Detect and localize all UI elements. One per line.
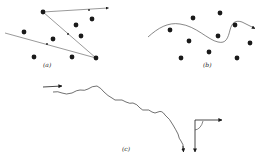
panel-a-trajectory (5, 8, 108, 58)
right-angle-arc (195, 121, 203, 130)
panel-c-random-walk (53, 86, 183, 150)
mid-arrow-marker (46, 43, 48, 45)
panel-a (5, 8, 109, 60)
mid-arrow-marker (67, 33, 69, 35)
arrowhead-icon (183, 146, 184, 152)
incoming-arrow (43, 86, 62, 87)
figure: (a) (b) (c) (0, 0, 269, 156)
diagram-canvas (0, 0, 269, 156)
panel-a-label: (a) (43, 61, 51, 68)
panel-b-particles (168, 11, 253, 61)
mid-arrow-marker (88, 9, 90, 11)
panel-b-label: (b) (203, 61, 212, 68)
arrowhead-icon (252, 27, 255, 29)
panel-c-label: (c) (122, 145, 130, 152)
panel-b (148, 11, 255, 61)
panel-a-particles (22, 10, 99, 61)
panel-b-curved-trajectory (148, 21, 254, 42)
panel-c (43, 86, 222, 152)
